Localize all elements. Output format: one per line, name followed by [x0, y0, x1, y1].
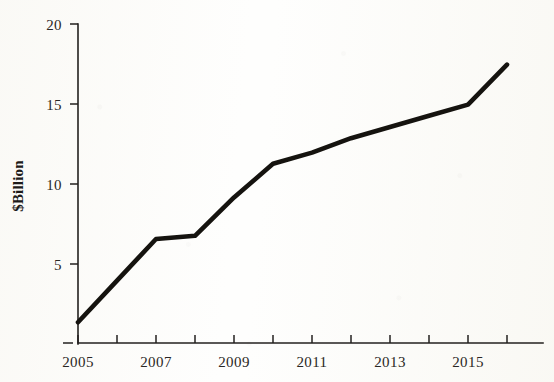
x-tick-label-2005: 2005	[62, 354, 94, 370]
x-tick-label-2007: 2007	[140, 354, 172, 370]
y-tick-label-5: 5	[54, 257, 62, 273]
chart-page: 20 15 10 5 $Billion 2005 2007	[0, 0, 554, 382]
x-axis: 2005 2007 2009 2011 2013 2015	[62, 335, 543, 370]
y-axis-label: $Billion	[10, 160, 26, 212]
y-tick-label-10: 10	[46, 177, 62, 193]
x-tick-label-2013: 2013	[374, 354, 406, 370]
y-axis: 20 15 10 5 $Billion	[10, 17, 78, 344]
line-chart: 20 15 10 5 $Billion 2005 2007	[0, 0, 554, 382]
x-tick-label-2009: 2009	[218, 354, 250, 370]
x-tick-label-2015: 2015	[452, 354, 484, 370]
y-tick-label-15: 15	[46, 97, 62, 113]
data-series-line	[78, 65, 507, 323]
x-tick-label-2011: 2011	[296, 354, 327, 370]
y-tick-label-20: 20	[46, 17, 62, 33]
